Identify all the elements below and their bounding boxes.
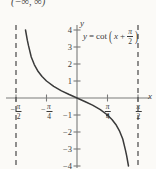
y-tick-label-neg-2: −2 (59, 128, 72, 137)
fraction-denominator: 4 (46, 113, 52, 121)
fraction-denominator: 2 (16, 113, 22, 121)
equation-open-paren: ( (109, 29, 112, 44)
fraction-numerator: π (135, 103, 141, 111)
y-tick-label-4: 4 (63, 26, 72, 35)
fraction-numerator: π (16, 103, 22, 111)
y-axis-label: y (80, 19, 84, 28)
fraction-numerator: π (105, 103, 111, 111)
equation-label: y = cot ( x + π 2 ) (83, 28, 139, 45)
fraction-numerator: π (46, 103, 52, 111)
equation-arg-fraction: π 2 (127, 28, 133, 45)
y-tick-label-neg-1: −1 (59, 111, 72, 120)
equation-arg-x: x (114, 32, 118, 41)
y-tick-label-neg-3: −3 (59, 145, 72, 154)
equation-arg-plus: + (120, 32, 125, 41)
equation-close-paren: ) (135, 29, 138, 44)
fraction-denominator: 4 (105, 113, 111, 121)
cotangent-graph-figure: (−∞, ∞) y x (0, 0, 156, 169)
x-tick-fraction: π 4 (105, 103, 111, 120)
fraction-denominator: 2 (135, 113, 141, 121)
x-tick-label-neg-pi-over-2: − π 2 (10, 103, 21, 120)
plot-canvas (0, 0, 156, 169)
x-tick-fraction: π 2 (16, 103, 22, 120)
x-tick-fraction: π 2 (135, 103, 141, 120)
equation-function: cot (96, 32, 107, 41)
fraction-numerator: π (127, 28, 133, 36)
x-tick-label-neg-pi-over-4: − π 4 (41, 103, 52, 120)
x-axis-label: x (148, 92, 152, 101)
y-tick-label-2: 2 (63, 60, 72, 69)
x-tick-fraction: π 4 (46, 103, 52, 120)
fraction-denominator: 2 (127, 38, 133, 46)
y-tick-label-1: 1 (63, 77, 72, 86)
y-tick-label-neg-4: −4 (59, 162, 72, 169)
x-tick-label-pi-over-4: π 4 (104, 103, 111, 120)
y-tick-label-3: 3 (63, 43, 72, 52)
x-tick-label-pi-over-2: π 2 (135, 103, 142, 120)
equation-lhs: y (83, 32, 87, 41)
equation-equals: = (89, 32, 94, 41)
